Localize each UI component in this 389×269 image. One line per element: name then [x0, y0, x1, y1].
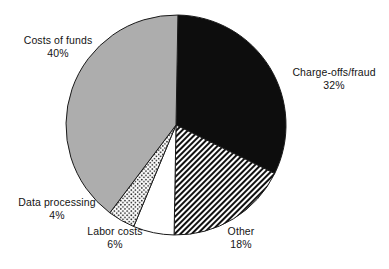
slice-label-charge-offs-fraud: Charge-offs/fraud 32% [281, 66, 387, 92]
slice-label-data-processing-value: 4% [4, 209, 110, 222]
slice-label-charge-offs-fraud-value: 32% [281, 79, 387, 92]
slice-label-other: Other 18% [209, 225, 273, 251]
slice-label-charge-offs-fraud-name: Charge-offs/fraud [292, 66, 375, 78]
pie-chart-figure: Costs of funds 40% Charge-offs/fraud 32%… [0, 0, 389, 269]
slice-label-other-value: 18% [209, 238, 273, 251]
slice-label-costs-of-funds: Costs of funds 40% [6, 34, 110, 60]
slice-label-data-processing-name: Data processing [18, 196, 95, 208]
slice-label-costs-of-funds-value: 40% [6, 47, 110, 60]
slice-label-labor-costs-value: 6% [74, 238, 156, 251]
slice-label-other-name: Other [228, 225, 255, 237]
slice-label-labor-costs: Labor costs 6% [74, 225, 156, 251]
slice-label-data-processing: Data processing 4% [4, 196, 110, 222]
slice-label-labor-costs-name: Labor costs [87, 225, 142, 237]
slice-label-costs-of-funds-name: Costs of funds [24, 34, 93, 46]
